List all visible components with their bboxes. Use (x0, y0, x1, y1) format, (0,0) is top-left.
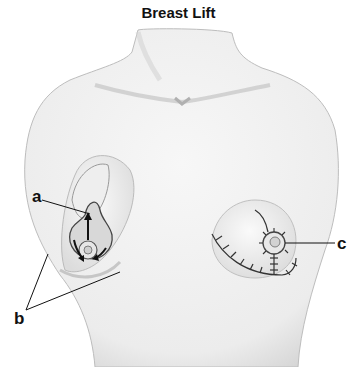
leader-b1 (26, 254, 48, 310)
label-b: b (14, 310, 24, 327)
breast-lift-illustration (0, 0, 357, 367)
label-c: c (337, 235, 346, 252)
label-a: a (32, 188, 41, 205)
